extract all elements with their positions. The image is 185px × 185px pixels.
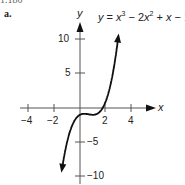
y-tick-label-neg10: −10 — [87, 171, 104, 181]
x-axis-label: x — [158, 102, 164, 113]
y-tick-label-neg5: −5 — [87, 137, 98, 147]
y-axis-arrow-icon — [77, 22, 84, 32]
equation-label: y = x3 − 2x2 + x − 1 — [98, 10, 185, 23]
y-tick-label-5: 5 — [65, 68, 71, 78]
function-curve — [62, 40, 118, 168]
x-tick-label-neg2: −2 — [47, 116, 58, 126]
x-tick-label-4: 4 — [128, 116, 134, 126]
graph — [0, 0, 185, 185]
curve-arrow-up-icon — [114, 34, 121, 43]
eq-minus2: − 2 — [125, 11, 144, 23]
eq-equals: = — [104, 11, 117, 23]
x-tick-label-neg4: −4 — [21, 116, 32, 126]
curve-arrow-down-icon — [59, 163, 66, 172]
y-tick-label-10: 10 — [58, 34, 69, 44]
x-axis-arrow-icon — [146, 105, 156, 112]
x-tick-label-2: 2 — [102, 116, 108, 126]
y-axis-label: y — [77, 8, 83, 19]
eq-plus: + — [154, 11, 167, 23]
eq-minus1: − 1 — [172, 11, 185, 23]
